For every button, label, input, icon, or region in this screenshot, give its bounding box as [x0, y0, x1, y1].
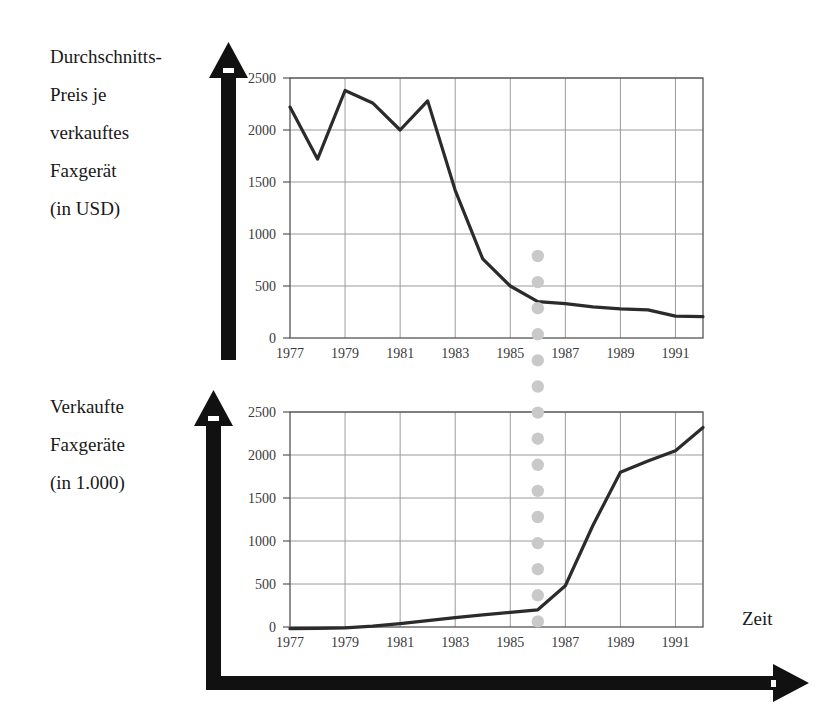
y-tick-label: 2000	[248, 123, 276, 138]
connector-dot	[532, 406, 544, 418]
connector-dot	[532, 328, 544, 340]
x-tick-label: 1977	[276, 635, 304, 650]
x-tick-label: 1991	[661, 346, 689, 361]
connector-dot	[532, 302, 544, 314]
y-tick-label: 1000	[248, 534, 276, 549]
y-tick-label: 2500	[248, 71, 276, 86]
connector-dot	[532, 380, 544, 392]
y-tick-label: 2500	[248, 405, 276, 420]
connector-dot	[532, 589, 544, 601]
y-tick-label: 1500	[248, 175, 276, 190]
x-tick-label: 1977	[276, 346, 304, 361]
connector-dot	[532, 511, 544, 523]
x-tick-label: 1979	[331, 346, 359, 361]
connector-dot	[532, 537, 544, 549]
x-tick-label: 1991	[661, 635, 689, 650]
chart-average-price: 05001000150020002500 1977197919811983198…	[248, 71, 703, 361]
y-tick-label: 0	[269, 331, 276, 346]
bottom-chart-series-line	[290, 427, 703, 628]
y-tick-label: 2000	[248, 448, 276, 463]
figure-root: Durchschnitts- Preis je verkauftes Faxge…	[0, 0, 829, 725]
x-tick-label: 1981	[386, 346, 414, 361]
x-tick-label: 1985	[496, 635, 524, 650]
chart-units-sold: 05001000150020002500 1977197919811983198…	[248, 405, 703, 650]
top-chart-axis-arrow	[209, 42, 248, 360]
y-tick-label: 1000	[248, 227, 276, 242]
x-tick-label: 1983	[441, 635, 469, 650]
bottom-chart-y-tick-labels: 05001000150020002500	[248, 405, 276, 635]
top-chart-x-tick-labels: 19771979198119831985198719891991	[276, 346, 689, 361]
x-tick-label: 1983	[441, 346, 469, 361]
time-axis-arrow	[206, 664, 809, 702]
connector-dot	[532, 485, 544, 497]
bottom-chart-x-tick-labels: 19771979198119831985198719891991	[276, 635, 689, 650]
x-tick-label: 1981	[386, 635, 414, 650]
bottom-chart-plot-border	[290, 412, 703, 627]
x-tick-label: 1987	[551, 346, 579, 361]
top-chart-gridlines	[283, 78, 703, 338]
top-chart-plot-border	[290, 78, 703, 338]
bottom-chart-gridlines	[283, 412, 703, 627]
y-tick-label: 500	[255, 577, 276, 592]
top-chart-series-line	[290, 90, 703, 316]
charts-canvas: 05001000150020002500 1977197919811983198…	[0, 0, 829, 725]
x-tick-label: 1979	[331, 635, 359, 650]
y-tick-label: 1500	[248, 491, 276, 506]
x-tick-label: 1987	[551, 635, 579, 650]
connector-dot	[532, 354, 544, 366]
y-tick-label: 0	[269, 620, 276, 635]
connector-dot	[532, 250, 544, 262]
x-tick-label: 1989	[606, 635, 634, 650]
x-tick-label: 1989	[606, 346, 634, 361]
connector-dot	[532, 459, 544, 471]
bottom-chart-axis-arrow	[194, 390, 233, 690]
dotted-vertical-connector	[532, 250, 544, 628]
connector-dot	[532, 563, 544, 575]
x-tick-label: 1985	[496, 346, 524, 361]
connector-dot	[532, 615, 544, 627]
connector-dot	[532, 276, 544, 288]
connector-dot	[532, 433, 544, 445]
top-chart-y-tick-labels: 05001000150020002500	[248, 71, 276, 346]
y-tick-label: 500	[255, 279, 276, 294]
